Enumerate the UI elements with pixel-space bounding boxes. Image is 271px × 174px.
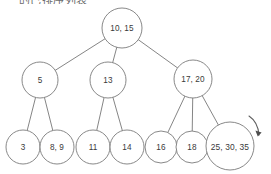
tree-node-l3: 3 (6, 130, 40, 164)
nodes-layer: 10, 1551317, 2038, 91114161825, 30, 35 (6, 8, 254, 170)
node-label: 25, 30, 35 (211, 142, 249, 152)
tree-node-l16: 16 (145, 131, 177, 163)
tree-edge (27, 97, 35, 130)
tree-canvas: 10, 1551317, 2038, 91114161825, 30, 35 (0, 0, 271, 174)
tree-node-l14: 14 (110, 130, 144, 164)
node-label: 5 (38, 76, 43, 85)
node-label: 11 (89, 143, 98, 152)
node-label: 10, 15 (110, 24, 134, 33)
tree-node-l89: 8, 9 (40, 130, 74, 164)
node-label: 14 (122, 143, 132, 152)
node-label: 17, 20 (181, 75, 205, 84)
tree-edge (113, 97, 122, 130)
tree-node-n13: 13 (90, 62, 126, 98)
node-label: 8, 9 (50, 143, 64, 152)
node-label: 16 (156, 143, 166, 152)
tree-node-n1720: 17, 20 (174, 60, 212, 98)
tree-edge (202, 96, 218, 125)
tree-edge (113, 47, 117, 62)
tree-node-l253035: 25, 30, 35 (206, 122, 254, 170)
tree-edge (44, 97, 52, 130)
tree-edge (97, 98, 104, 131)
tree-node-l11: 11 (76, 130, 110, 164)
tree-edge (168, 96, 185, 132)
node-label: 3 (21, 143, 26, 152)
tree-node-n5: 5 (22, 62, 58, 98)
tree-node-l18: 18 (176, 131, 208, 163)
btree-diagram: 的已排序列表 10, 1551317, 2038, 91114161825, 3… (0, 0, 271, 174)
node-label: 18 (187, 143, 197, 152)
node-label: 13 (103, 76, 113, 85)
tree-node-root: 10, 15 (102, 8, 142, 48)
tree-edge (138, 40, 177, 68)
